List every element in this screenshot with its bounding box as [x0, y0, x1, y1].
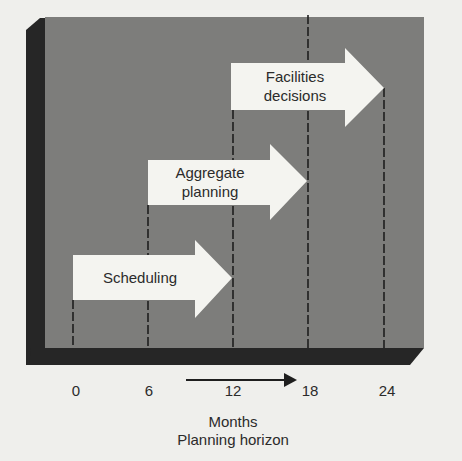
aggregate-planning-label: Aggregate planning [150, 163, 270, 201]
facilities-decisions-label: Facilities decisions [240, 67, 350, 105]
facilities-decisions-label-line-1: Facilities [240, 67, 350, 86]
tick-label-12: 12 [225, 382, 242, 400]
axis-unit-label: Months [208, 413, 257, 431]
board-bottom-edge [29, 348, 424, 365]
aggregate-planning-label-line-1: Aggregate [150, 163, 270, 182]
scheduling-label-line-1: Scheduling [85, 268, 195, 287]
axis-title: Planning horizon [177, 431, 289, 449]
tick-label-18: 18 [302, 382, 319, 400]
timeline-arrow [186, 373, 297, 387]
tick-label-24: 24 [379, 382, 396, 400]
tick-label-0: 0 [72, 382, 80, 400]
scheduling-label: Scheduling [85, 268, 195, 287]
tick-label-6: 6 [145, 382, 153, 400]
facilities-decisions-label-line-2: decisions [240, 86, 350, 105]
planning-horizon-diagram: Scheduling Aggregate planning Facilities… [0, 0, 462, 461]
aggregate-planning-label-line-2: planning [150, 182, 270, 201]
board-left-edge [26, 18, 45, 365]
